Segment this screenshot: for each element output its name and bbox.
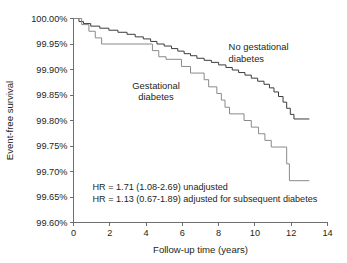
annotation-text: HR = 1.13 (0.67-1.89) adjusted for subse… — [93, 194, 318, 204]
x-tick-label: 10 — [250, 228, 260, 238]
y-tick-label: 99.90% — [36, 65, 67, 75]
x-tick-label: 8 — [216, 228, 221, 238]
curve-label-text: diabetes — [229, 53, 265, 64]
y-tick-label: 99.80% — [36, 116, 67, 126]
x-tick-label: 12 — [286, 228, 296, 238]
y-tick-label: 99.60% — [36, 218, 67, 228]
x-axis-title: Follow-up time (years) — [153, 244, 248, 255]
y-tick-label: 99.75% — [36, 141, 67, 151]
y-axis-ticks: 99.60%99.65%99.70%99.75%99.80%99.85%99.9… — [31, 14, 73, 228]
x-tick-label: 14 — [322, 228, 332, 238]
kaplan-meier-figure: 99.60%99.65%99.70%99.75%99.80%99.85%99.9… — [0, 0, 347, 263]
y-tick-label: 99.70% — [36, 167, 67, 177]
y-tick-label: 99.85% — [36, 90, 67, 100]
x-tick-label: 6 — [180, 228, 185, 238]
x-tick-label: 0 — [71, 228, 76, 238]
x-tick-label: 4 — [144, 228, 149, 238]
hazard-ratio-annotations: HR = 1.71 (1.08-2.69) unadjustedHR = 1.1… — [93, 182, 318, 203]
x-axis-ticks: 02468101214 — [71, 223, 333, 239]
y-tick-label: 100.00% — [31, 14, 67, 24]
y-tick-label: 99.65% — [36, 192, 67, 202]
y-tick-label: 99.95% — [36, 39, 67, 49]
chart-canvas: 99.60%99.65%99.70%99.75%99.80%99.85%99.9… — [0, 0, 347, 263]
curve-label-text: Gestational — [132, 80, 179, 91]
curve-label-text: diabetes — [138, 91, 174, 102]
annotation-text: HR = 1.71 (1.08-2.69) unadjusted — [93, 182, 228, 192]
curve-label-text: No gestational — [229, 41, 289, 52]
x-tick-label: 2 — [107, 228, 112, 238]
survival-curve — [74, 19, 310, 119]
y-axis-title: Event-free survival — [4, 81, 15, 160]
